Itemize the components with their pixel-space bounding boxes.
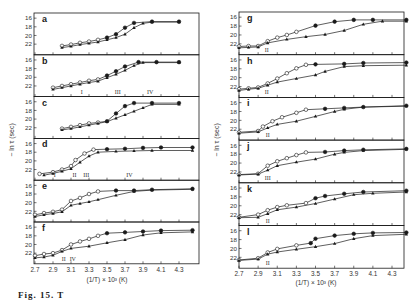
filled-circle-marker (309, 241, 313, 245)
filled-circle-marker (114, 32, 118, 36)
left-column-panels: 16182022a16182022bIIIIIV16182022c1618202… (25, 13, 199, 273)
transition-marker-label: III (83, 172, 89, 178)
transition-marker-label: II (265, 89, 269, 95)
y-tick-label: 22 (25, 40, 32, 47)
y-tick-label: 22 (230, 254, 237, 261)
open-circle-marker (96, 234, 100, 238)
y-tick-label: 16 (25, 56, 32, 63)
filled-circle-marker (314, 237, 318, 241)
filled-circle-marker (333, 234, 337, 238)
upper-curve (239, 20, 406, 47)
y-tick-label: 16 (230, 56, 237, 63)
lower-curve (239, 149, 406, 175)
panel-label: c (42, 98, 47, 108)
transition-marker-label: II (266, 218, 270, 224)
open-circle-marker (295, 30, 299, 34)
y-tick-label: 22 (230, 40, 237, 47)
filled-circle-marker (132, 21, 136, 25)
open-circle-marker (295, 111, 299, 115)
transition-marker-label: II (266, 260, 270, 266)
x-tick-label: 3.7 (330, 270, 339, 277)
filled-circle-marker (141, 146, 145, 150)
y-tick-label: 18 (25, 148, 32, 155)
x-tick-label: 2.7 (235, 270, 244, 277)
open-circle-marker (87, 237, 91, 241)
open-circle-marker (83, 152, 87, 156)
figure-caption: Fig. 15. T (18, 290, 64, 300)
filled-circle-marker (114, 189, 118, 193)
panel-k: 16182022kII (230, 183, 408, 226)
open-circle-marker (96, 190, 100, 194)
upper-curve (239, 191, 406, 218)
y-tick-label: 20 (25, 73, 32, 80)
x-tick-label: 2.9 (49, 266, 58, 273)
y-tick-label: 16 (25, 98, 32, 105)
x-tick-label: 3.1 (67, 266, 76, 273)
panel-j: 16182022jIII (230, 140, 408, 183)
y-tick-label: 22 (25, 166, 32, 173)
y-tick-label: 16 (25, 223, 32, 230)
panel-label: b (42, 56, 48, 66)
filled-circle-marker (323, 150, 327, 154)
open-circle-marker (304, 151, 308, 155)
open-circle-marker (78, 240, 82, 244)
x-tick-label: 2.9 (254, 270, 263, 277)
transition-marker-label: IV (70, 256, 77, 262)
panel-label: g (247, 13, 253, 23)
panel-label: h (247, 56, 253, 66)
y-tick-label: 16 (230, 227, 237, 234)
open-circle-marker (295, 67, 299, 71)
y-tick-label: 16 (25, 182, 32, 189)
y-tick-label: 20 (230, 117, 237, 124)
y-tick-label: 18 (25, 190, 32, 197)
triangle-marker (114, 149, 117, 152)
open-circle-marker (74, 158, 78, 162)
panel-l: 16182022lII (230, 226, 408, 269)
y-tick-label: 20 (230, 31, 237, 38)
panel-c: 16182022c (25, 97, 199, 139)
lower-curve (239, 234, 406, 260)
open-circle-marker (295, 153, 299, 157)
y-tick-label: 18 (25, 23, 32, 30)
y-tick-label: 16 (230, 142, 237, 149)
x-tick-label: 2.7 (31, 266, 40, 273)
open-circle-marker (285, 71, 289, 75)
y-tick-label: 18 (230, 193, 237, 200)
y-tick-label: 22 (230, 168, 237, 175)
panel-e: 16182022e (25, 180, 199, 222)
filled-circle-marker (333, 20, 337, 24)
x-tick-label: 3.5 (311, 270, 320, 277)
y-tick-label: 22 (25, 124, 32, 131)
x-tick-label: 4.3 (388, 270, 397, 277)
upper-curve (35, 230, 193, 256)
y-tick-label: 22 (25, 208, 32, 215)
panel-label: a (42, 14, 48, 24)
panel-g: 16182022gII (230, 12, 408, 55)
y-tick-label: 18 (230, 22, 237, 29)
triangle-marker (78, 160, 81, 163)
open-circle-marker (271, 119, 275, 123)
panel-a: 16182022a (25, 13, 199, 55)
filled-circle-marker (371, 18, 375, 22)
open-circle-marker (304, 63, 308, 67)
filled-circle-marker (123, 147, 127, 151)
panel-h: 16182022hII (230, 55, 408, 98)
filled-circle-marker (323, 194, 327, 198)
y-tick-label: 16 (25, 140, 32, 147)
lower-curve (239, 21, 406, 48)
y-tick-label: 18 (25, 232, 32, 239)
x-tick-label: 3.9 (349, 270, 358, 277)
x-tick-label: 4.1 (157, 266, 166, 273)
filled-circle-marker (352, 18, 356, 22)
panel-label: i (247, 98, 250, 108)
y-tick-label: 20 (25, 157, 32, 164)
y-tick-label: 18 (25, 107, 32, 114)
x-tick-label: 3.3 (292, 270, 301, 277)
open-circle-marker (285, 204, 289, 208)
x-tick-label: 3.5 (103, 266, 112, 273)
y-tick-label: 22 (230, 83, 237, 90)
open-circle-marker (69, 243, 73, 247)
transition-marker-label: II (73, 172, 77, 178)
lower-curve (239, 192, 406, 218)
filled-circle-marker (105, 147, 109, 151)
